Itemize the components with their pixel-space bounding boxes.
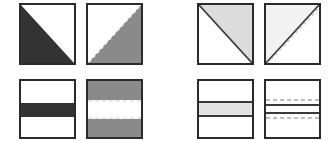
panel-3-canvas (19, 79, 76, 139)
panel-7-canvas (197, 79, 254, 139)
panel-4-middle-band (87, 100, 142, 119)
panel-2-canvas (86, 3, 143, 65)
panel-diagonal-light-no-dash (197, 3, 254, 65)
panel-bands-dark-no-dash (19, 79, 76, 139)
panel-8-canvas (264, 79, 321, 139)
panel-6-canvas (264, 3, 321, 65)
figure-root (0, 0, 336, 141)
panel-bands-dark-dashed (86, 79, 143, 139)
panel-3-middle-band (20, 103, 75, 117)
panel-diagonal-light-dashed (264, 3, 321, 65)
panel-4-canvas (86, 79, 143, 139)
panel-diagonal-dark-no-dash (19, 3, 76, 65)
panel-1-canvas (19, 3, 76, 65)
panel-7-middle-band (198, 102, 253, 116)
panel-diagonal-dark-dashed (86, 3, 143, 65)
panel-8-background (264, 79, 321, 139)
panel-bands-light-no-dash (197, 79, 254, 139)
panel-bands-light-dashed (264, 79, 321, 139)
panel-5-canvas (197, 3, 254, 65)
